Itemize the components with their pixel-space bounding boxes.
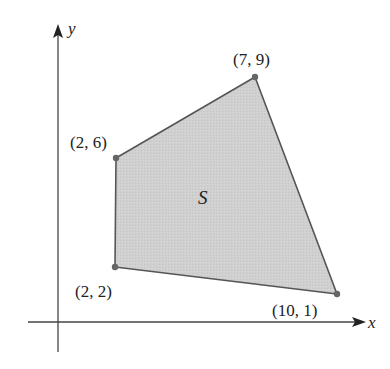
y-axis	[53, 24, 63, 352]
vertex-label-10-1: (10, 1)	[272, 301, 317, 320]
region-label: S	[198, 187, 208, 208]
vertex-dot-10-1	[334, 291, 340, 297]
diagram-canvas: y x S (2, 6) (7, 9) (10, 1) (2, 2)	[0, 0, 390, 369]
x-axis-label: x	[367, 313, 376, 332]
vertex-dot-2-6	[113, 155, 119, 161]
vertex-dot-2-2	[112, 264, 118, 270]
vertex-label-2-2: (2, 2)	[75, 282, 112, 301]
vertex-dot-7-9	[252, 74, 258, 80]
vertex-label-7-9: (7, 9)	[233, 50, 270, 69]
region-s	[115, 77, 337, 294]
vertex-label-2-6: (2, 6)	[70, 133, 107, 152]
y-axis-label: y	[66, 19, 76, 38]
